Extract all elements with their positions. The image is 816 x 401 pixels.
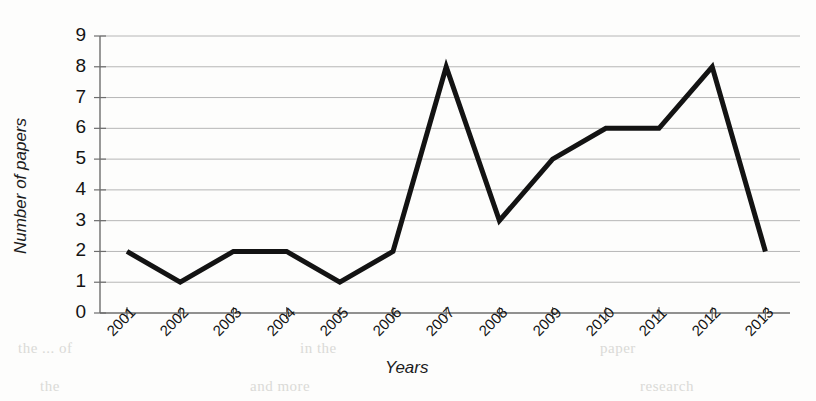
y-axis-tick-label: 3	[64, 209, 86, 231]
data-series-line	[127, 67, 765, 282]
chart-figure: the ... of in the paper the and more res…	[0, 0, 816, 401]
y-axis-tick-label: 7	[64, 86, 86, 108]
y-axis-tick-label: 4	[64, 178, 86, 200]
y-axis-tick-label: 5	[64, 147, 86, 169]
plot-area	[0, 0, 816, 401]
y-axis-tick-label: 9	[64, 24, 86, 46]
y-axis-tick-label: 1	[64, 270, 86, 292]
y-axis-tick-label: 0	[64, 301, 86, 323]
y-axis-tick-label: 2	[64, 239, 86, 261]
y-axis-tick-label: 8	[64, 55, 86, 77]
y-axis-tick-label: 6	[64, 116, 86, 138]
